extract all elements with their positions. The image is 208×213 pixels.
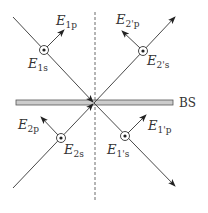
label-e1prime-p: E1'p <box>147 118 172 135</box>
label-e1p: E1p <box>55 13 77 30</box>
e1prime-polarization <box>121 115 147 141</box>
e1-polarization <box>40 30 65 55</box>
label-e2prime-p: E2'p <box>115 12 140 29</box>
e2prime-polarization <box>122 31 148 56</box>
label-e1s: E1s <box>27 56 48 73</box>
label-e2prime-s: E2's <box>146 53 170 70</box>
beam-1-incoming <box>13 17 93 102</box>
label-e2p: E2p <box>17 117 39 134</box>
beam-splitter-diagram: BS E1p E1s E2'p E2's E2p E2s E1'p E1's <box>0 0 208 213</box>
e2-polarization <box>41 117 66 143</box>
label-e1prime-s: E1's <box>106 142 130 159</box>
label-e2s: E2s <box>63 142 84 159</box>
bs-label: BS <box>179 96 196 110</box>
